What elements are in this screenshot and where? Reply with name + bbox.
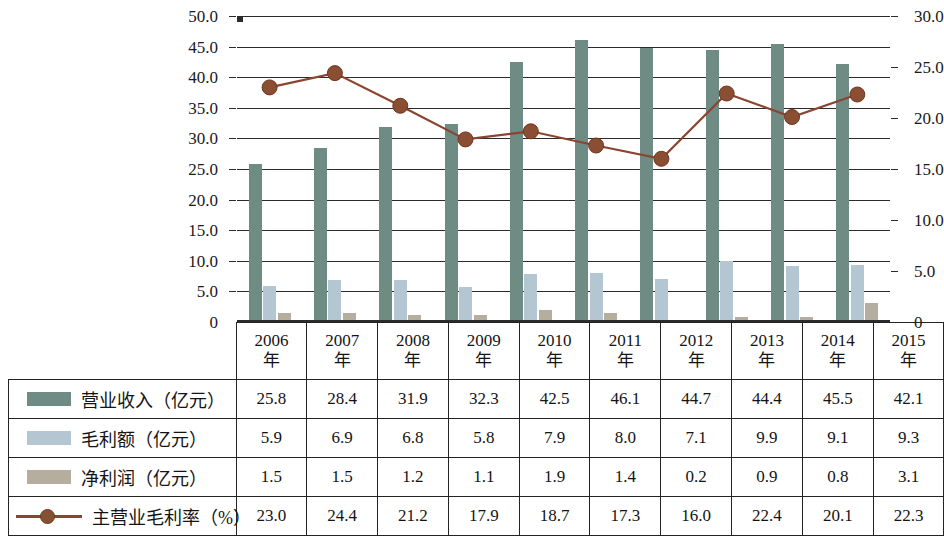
left-axis-tick bbox=[229, 47, 236, 48]
table-value-cell: 18.7 bbox=[519, 497, 590, 536]
right-axis-tick-label: 30.0 bbox=[914, 8, 944, 25]
table-value-cell: 17.3 bbox=[590, 497, 661, 536]
table-value-cell: 1.4 bbox=[590, 458, 661, 497]
plot-area bbox=[237, 16, 890, 322]
year-header-cell: 2008年 bbox=[378, 323, 449, 380]
right-axis-tick bbox=[891, 271, 898, 272]
margin-line-marker bbox=[262, 80, 277, 95]
left-axis-tick bbox=[229, 200, 236, 201]
table-value-cell: 42.5 bbox=[519, 380, 590, 419]
right-axis-labels: 05.010.015.020.025.030.0 bbox=[900, 16, 942, 322]
left-axis-tick-label: 50.0 bbox=[188, 8, 218, 25]
year-header-cell: 2009年 bbox=[448, 323, 519, 380]
gross-profit-swatch bbox=[27, 431, 71, 445]
net-profit-swatch bbox=[27, 470, 71, 484]
table-value-cell: 0.2 bbox=[661, 458, 732, 497]
table-row: 主营业毛利率（%）23.024.421.217.918.717.316.022.… bbox=[9, 497, 944, 536]
margin-line-path bbox=[270, 73, 858, 159]
year-header-cell: 2013年 bbox=[732, 323, 803, 380]
table-value-cell: 5.9 bbox=[236, 419, 307, 458]
table-body: 营业收入（亿元）25.828.431.932.342.546.144.744.4… bbox=[9, 380, 944, 536]
right-axis-tick bbox=[891, 220, 898, 221]
legend-label: 主营业毛利率（%） bbox=[92, 503, 251, 529]
margin-line-series bbox=[237, 16, 890, 322]
table-value-cell: 0.8 bbox=[802, 458, 873, 497]
left-axis-tick bbox=[229, 291, 236, 292]
year-header-cell: 2007年 bbox=[307, 323, 378, 380]
right-axis-tick-label: 15.0 bbox=[914, 161, 944, 178]
legend-cell: 净利润（亿元） bbox=[9, 458, 237, 497]
right-axis-tick bbox=[891, 67, 898, 68]
table-value-cell: 25.8 bbox=[236, 380, 307, 419]
left-axis-tick bbox=[229, 16, 236, 17]
table-value-cell: 1.5 bbox=[236, 458, 307, 497]
margin-line-marker bbox=[458, 132, 473, 147]
table-value-cell: 22.3 bbox=[873, 497, 944, 536]
margin-line-marker bbox=[654, 151, 669, 166]
margin-line-marker bbox=[327, 66, 342, 81]
left-axis-tick-label: 15.0 bbox=[188, 222, 218, 239]
table-value-cell: 32.3 bbox=[448, 380, 519, 419]
table-value-cell: 6.9 bbox=[307, 419, 378, 458]
margin-line-marker bbox=[785, 110, 800, 125]
year-header-cell: 2015年 bbox=[873, 323, 944, 380]
left-axis-tick bbox=[229, 108, 236, 109]
table-header-row: 2006年2007年2008年2009年2010年2011年2012年2013年… bbox=[9, 323, 944, 380]
year-header-cell: 2006年 bbox=[236, 323, 307, 380]
left-axis-tick-label: 35.0 bbox=[188, 100, 218, 117]
table-value-cell: 3.1 bbox=[873, 458, 944, 497]
legend-label: 毛利额（亿元） bbox=[81, 425, 207, 451]
left-axis-tick-label: 25.0 bbox=[188, 161, 218, 178]
legend-cell: 毛利额（亿元） bbox=[9, 419, 237, 458]
right-axis-tick-label: 20.0 bbox=[914, 110, 944, 127]
legend-cell: 营业收入（亿元） bbox=[9, 380, 237, 419]
legend-label: 净利润（亿元） bbox=[81, 464, 207, 490]
table-value-cell: 44.7 bbox=[661, 380, 732, 419]
margin-line-swatch bbox=[16, 509, 82, 523]
header-blank-cell bbox=[9, 323, 237, 380]
left-axis-tick bbox=[229, 169, 236, 170]
table-value-cell: 45.5 bbox=[802, 380, 873, 419]
right-axis-tick-label: 5.0 bbox=[914, 263, 935, 280]
data-table: 2006年2007年2008年2009年2010年2011年2012年2013年… bbox=[8, 322, 944, 536]
table-value-cell: 9.9 bbox=[732, 419, 803, 458]
year-header-cell: 2014年 bbox=[802, 323, 873, 380]
legend-cell: 主营业毛利率（%） bbox=[9, 497, 237, 536]
left-axis-tick-label: 40.0 bbox=[188, 69, 218, 86]
right-axis-tick bbox=[891, 169, 898, 170]
left-axis-labels: 05.010.015.020.025.030.035.040.045.050.0 bbox=[0, 16, 228, 322]
table-value-cell: 7.1 bbox=[661, 419, 732, 458]
table-value-cell: 8.0 bbox=[590, 419, 661, 458]
right-axis-tick-label: 25.0 bbox=[914, 59, 944, 76]
table-row: 营业收入（亿元）25.828.431.932.342.546.144.744.4… bbox=[9, 380, 944, 419]
table-value-cell: 1.5 bbox=[307, 458, 378, 497]
left-axis-tick bbox=[229, 261, 236, 262]
table-value-cell: 28.4 bbox=[307, 380, 378, 419]
margin-line-marker bbox=[589, 138, 604, 153]
revenue-swatch bbox=[27, 392, 71, 406]
left-axis-tick-label: 5.0 bbox=[197, 283, 218, 300]
legend-label: 营业收入（亿元） bbox=[81, 386, 225, 412]
left-axis-tick-label: 20.0 bbox=[188, 192, 218, 209]
left-axis-tick-label: 30.0 bbox=[188, 130, 218, 147]
year-header-cell: 2011年 bbox=[590, 323, 661, 380]
left-axis-tick bbox=[229, 230, 236, 231]
year-header-cell: 2010年 bbox=[519, 323, 590, 380]
table-value-cell: 46.1 bbox=[590, 380, 661, 419]
left-axis-tick-label: 45.0 bbox=[188, 39, 218, 56]
data-table-wrapper: 2006年2007年2008年2009年2010年2011年2012年2013年… bbox=[8, 322, 934, 536]
table-value-cell: 24.4 bbox=[307, 497, 378, 536]
table-row: 毛利额（亿元）5.96.96.85.87.98.07.19.99.19.3 bbox=[9, 419, 944, 458]
table-value-cell: 0.9 bbox=[732, 458, 803, 497]
left-axis-tick bbox=[229, 77, 236, 78]
table-value-cell: 44.4 bbox=[732, 380, 803, 419]
table-value-cell: 1.9 bbox=[519, 458, 590, 497]
margin-line-marker bbox=[393, 98, 408, 113]
table-value-cell: 20.1 bbox=[802, 497, 873, 536]
table-value-cell: 1.2 bbox=[378, 458, 449, 497]
margin-line-marker bbox=[523, 124, 538, 139]
table-value-cell: 17.9 bbox=[448, 497, 519, 536]
right-axis-tick bbox=[891, 16, 898, 17]
chart-area: 05.010.015.020.025.030.035.040.045.050.0… bbox=[0, 0, 942, 330]
left-axis-tick-label: 10.0 bbox=[188, 253, 218, 270]
